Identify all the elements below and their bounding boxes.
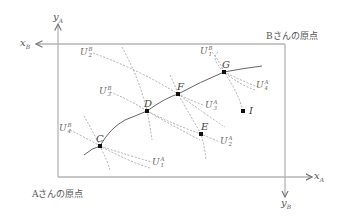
point-E [199,132,203,136]
origin-label-A: Aさんの原点 [32,187,84,200]
label-UA4: UA4 [256,80,269,91]
label-UB2: UB2 [80,47,93,58]
point-label-C: C [96,134,104,144]
curve-UB2 [93,53,225,127]
curve-UA2-right [147,111,220,142]
point-label-I: I [249,106,253,116]
point-label-E: E [201,122,208,132]
curve-UA2 [122,47,152,140]
point-G [222,70,226,74]
point-C [98,144,102,148]
curve-UA4-right [224,72,258,87]
label-UA1: UA1 [152,157,165,168]
curve-UB1 [215,52,255,90]
label-UB4: UB4 [59,123,72,134]
point-label-G: G [222,60,230,70]
indifference-curves-A [84,47,258,170]
label-UA3: UA3 [205,100,218,111]
point-label-F: F [177,82,184,92]
label-UB1: UB1 [200,46,213,57]
axis-label-xA: xA [314,171,324,183]
curve-UB3 [110,92,200,140]
point-D [145,109,149,113]
point-I [241,109,245,113]
curve-UB4 [70,130,150,168]
axis-label-yB: yB [281,198,291,210]
origin-label-B: Bさんの原点 [266,29,318,42]
label-UB3: UB3 [99,86,112,97]
curve-UA1-tail [100,146,152,162]
label-UA2: UA2 [220,136,233,147]
axis-label-yA: yA [53,12,63,24]
box-frame [36,24,312,197]
point-F [176,92,180,96]
curve-UA3 [170,75,206,160]
axis-label-xB: xB [20,38,30,50]
point-label-D: D [144,99,152,109]
contract-curve [84,66,262,155]
